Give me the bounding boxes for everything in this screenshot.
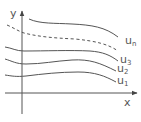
- label-u-n: un: [125, 34, 136, 48]
- function-sequence-diagram: y x un u3 u2 u1: [0, 0, 141, 122]
- curve-dashed: [7, 25, 118, 51]
- y-axis-label: y: [10, 7, 17, 20]
- curve-u-n: [29, 19, 118, 37]
- label-u-1: u1: [117, 74, 128, 88]
- x-axis-label: x: [124, 96, 131, 109]
